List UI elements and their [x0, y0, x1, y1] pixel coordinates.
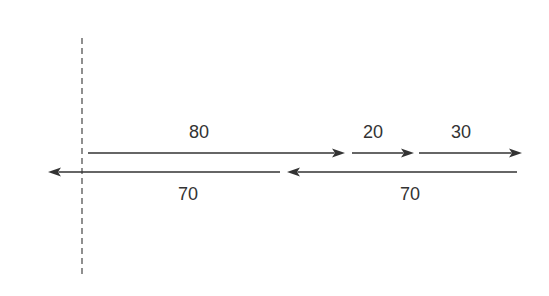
- diagram-canvas: [0, 0, 549, 296]
- upper-arrow-3-label: 30: [451, 123, 471, 141]
- upper-arrow-2-label: 20: [363, 123, 383, 141]
- lower-arrow-2-label: 70: [400, 185, 420, 203]
- upper-arrow-1-label: 80: [189, 123, 209, 141]
- arrows-group: [48, 149, 522, 177]
- lower-arrow-1-label: 70: [178, 185, 198, 203]
